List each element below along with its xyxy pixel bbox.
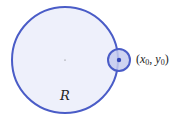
center-dot [64,59,65,60]
point-label: (x0, y0) [136,52,169,67]
point-x0-y0 [117,58,121,62]
region-label: R [59,88,70,103]
paren-close: ) [165,52,169,66]
